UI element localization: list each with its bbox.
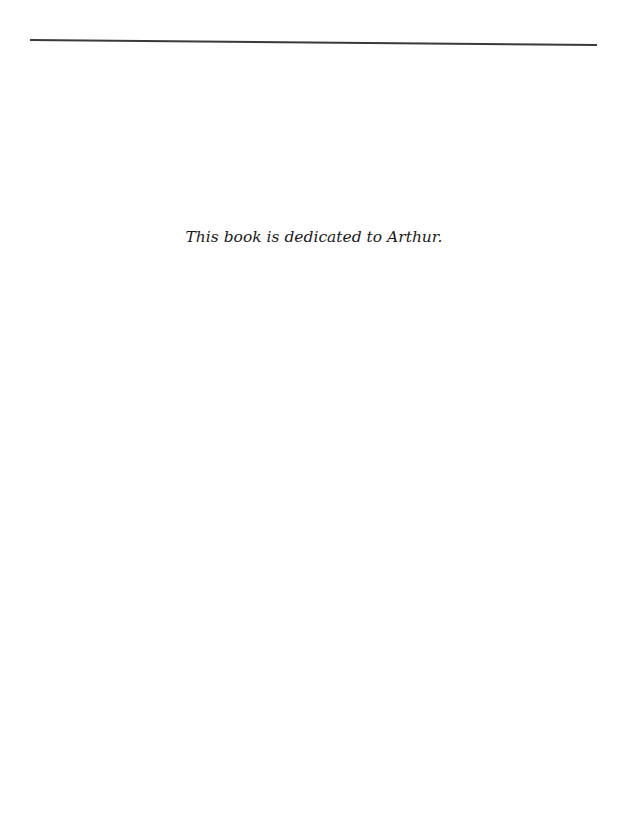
header-rule xyxy=(30,39,597,46)
dedication-text: This book is dedicated to Arthur. xyxy=(186,228,443,246)
book-page: This book is dedicated to Arthur. xyxy=(0,0,638,834)
dedication-block: This book is dedicated to Arthur. xyxy=(0,228,638,246)
